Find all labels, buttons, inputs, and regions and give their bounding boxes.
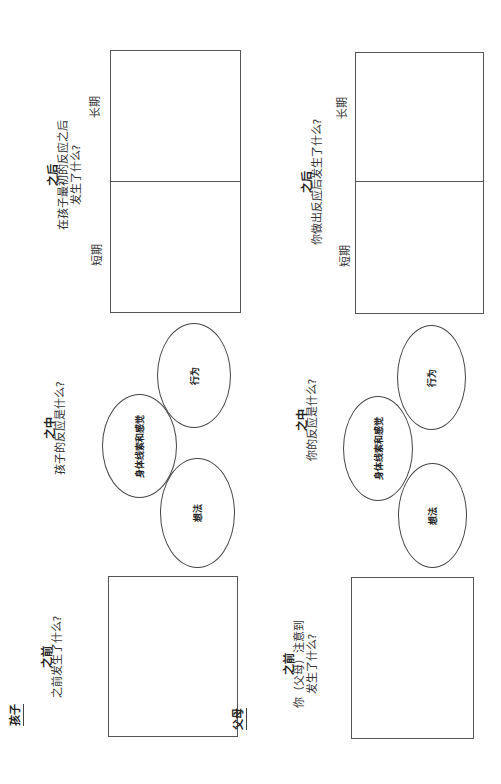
child-section-label: 孩子 (6, 704, 24, 726)
child-after-question-line2: 发生了什么? (70, 145, 83, 206)
parent-after-question: 你做出反应后发生了什么? (311, 119, 324, 246)
worksheet-rotated: 孩子 之前 之前发生了什么? 之中 孩子的反应是什么? 想法 身体线索和感觉 行… (0, 0, 501, 784)
parent-behavior-circle[interactable]: 行为 (397, 325, 466, 430)
parent-before-question-line2: 发生了什么? (306, 634, 319, 695)
parent-thoughts-circle[interactable]: 想法 (398, 463, 467, 568)
child-thoughts-circle[interactable]: 想法 (160, 458, 235, 568)
child-body-cues-label: 身体线索和感觉 (133, 415, 146, 478)
child-before-question: 之前发生了什么? (51, 616, 64, 699)
parent-before-question-line1: 你（父母）注意到 (293, 620, 306, 708)
parent-behavior-label: 行为 (425, 369, 438, 387)
child-short-term-field[interactable] (110, 182, 241, 313)
child-long-term-label: 长期 (86, 96, 102, 118)
child-after-question-line1: 在孩子最初的反应之后 (57, 120, 70, 230)
child-before-box[interactable] (108, 576, 238, 737)
parent-short-term-field[interactable] (355, 183, 484, 314)
parent-before-box[interactable] (351, 577, 474, 739)
child-behavior-circle[interactable]: 行为 (157, 323, 231, 428)
parent-thoughts-label: 想法 (426, 507, 439, 525)
parent-short-term-label: 短期 (336, 245, 352, 267)
parent-long-term-label: 长期 (333, 97, 349, 119)
parent-body-cues-circle[interactable]: 身体线索和感觉 (343, 396, 413, 501)
child-long-term-field[interactable] (110, 50, 241, 182)
parent-during-question: 你的反应是什么? (306, 379, 319, 462)
child-behavior-label: 行为 (188, 367, 201, 385)
parent-long-term-field[interactable] (355, 52, 484, 183)
parent-body-cues-label: 身体线索和感觉 (372, 417, 385, 480)
child-during-question: 孩子的反应是什么? (54, 381, 67, 475)
parent-section-label: 父母 (229, 708, 247, 730)
child-thoughts-label: 想法 (191, 504, 204, 522)
child-short-term-label: 短期 (88, 244, 104, 266)
